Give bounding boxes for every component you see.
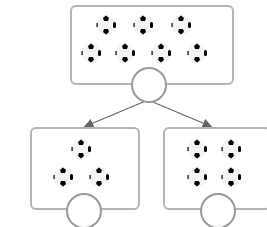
soccer-ball-icon: [170, 14, 192, 36]
soccer-ball-icon: [220, 138, 242, 160]
arrow-right: [148, 100, 210, 126]
top-answer-circle[interactable]: [131, 67, 167, 103]
soccer-ball-icon: [95, 14, 117, 36]
arrow-left: [86, 100, 148, 126]
soccer-ball-icon: [132, 14, 154, 36]
soccer-ball-icon: [52, 166, 74, 188]
soccer-ball-icon: [114, 42, 136, 64]
soccer-ball-icon: [186, 166, 208, 188]
soccer-ball-icon: [150, 42, 172, 64]
soccer-ball-icon: [80, 42, 102, 64]
soccer-ball-icon: [186, 138, 208, 160]
right-answer-circle[interactable]: [200, 193, 236, 227]
left-answer-circle[interactable]: [66, 193, 102, 227]
soccer-ball-icon: [186, 42, 208, 64]
soccer-ball-icon: [220, 166, 242, 188]
soccer-ball-icon: [88, 166, 110, 188]
soccer-ball-icon: [70, 138, 92, 160]
